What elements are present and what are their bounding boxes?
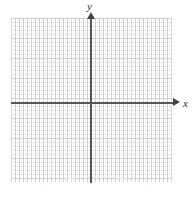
x-axis-line xyxy=(11,102,175,104)
y-axis-line xyxy=(90,17,92,183)
coordinate-plane-figure: x y xyxy=(0,0,195,199)
x-axis-label: x xyxy=(183,98,188,109)
y-axis-label: y xyxy=(87,1,92,12)
arrow-right-icon xyxy=(173,98,180,106)
arrow-up-icon xyxy=(87,12,95,19)
